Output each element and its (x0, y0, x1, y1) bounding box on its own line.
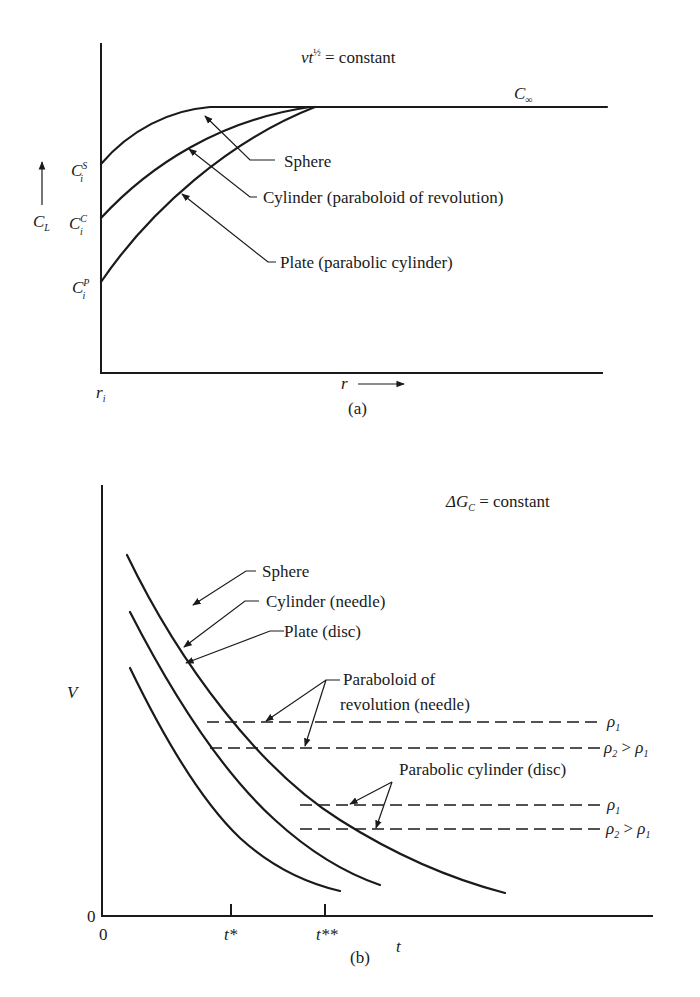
panel-b: ΔGC = constant V Sphere Cylinder (needle… (67, 485, 653, 967)
panel-a-title: vt½ = constant (301, 47, 396, 67)
plate-label-a: Plate (parabolic cylinder) (280, 253, 453, 272)
figure: vt½ = constant C∞ Sphere Cylinder (parab… (0, 0, 700, 997)
paraboloid-label-line1: Paraboloid of (343, 670, 435, 689)
t-axis-label: t (396, 937, 402, 956)
r-axis-label: r (341, 374, 348, 393)
paraboloid-label-line2: revolution (needle) (340, 695, 470, 714)
sphere-leader-a (205, 116, 275, 160)
plate-curve-b (130, 668, 340, 891)
c-infinity-label: C∞ (514, 84, 532, 105)
panel-b-title: ΔGC = constant (445, 492, 550, 513)
sphere-label-a: Sphere (284, 152, 331, 171)
cl-axis-label: CL (33, 212, 50, 233)
parabolic-cyl-rho1-label: ρ1 (606, 795, 620, 816)
t-2star-label: t** (316, 925, 338, 944)
panel-a: vt½ = constant C∞ Sphere Cylinder (parab… (33, 43, 607, 418)
ci-s-label: CSi (71, 160, 87, 184)
ci-p-label: CPi (72, 277, 89, 301)
parabolic-cylinder-label: Parabolic cylinder (disc) (399, 760, 566, 779)
parabolic-cyl-rho2-label: ρ2 > ρ1 (605, 819, 650, 840)
t-star-label: t* (224, 925, 238, 944)
plate-label-b: Plate (disc) (284, 622, 361, 641)
paraboloid-rho1-label: ρ1 (606, 712, 620, 733)
paraboloid-leader-2 (305, 680, 326, 746)
panel-b-caption: (b) (350, 948, 370, 967)
ci-c-label: CCi (69, 213, 87, 237)
y-zero-label: 0 (87, 907, 96, 926)
sphere-leader-b (193, 571, 256, 605)
plate-leader-b (186, 631, 284, 663)
paraboloid-rho2-label: ρ2 > ρ1 (603, 738, 648, 759)
sphere-curve-a (101, 107, 310, 164)
paraboloid-leader-1 (266, 680, 340, 721)
panel-a-caption: (a) (348, 399, 367, 418)
sphere-label-b: Sphere (262, 562, 309, 581)
plate-leader-a (182, 194, 276, 262)
v-axis-label: V (67, 683, 80, 702)
ri-label: ri (96, 383, 106, 404)
cylinder-label-a: Cylinder (paraboloid of revolution) (263, 188, 503, 207)
cylinder-label-b: Cylinder (needle) (266, 592, 385, 611)
x-zero-label: 0 (99, 925, 108, 944)
